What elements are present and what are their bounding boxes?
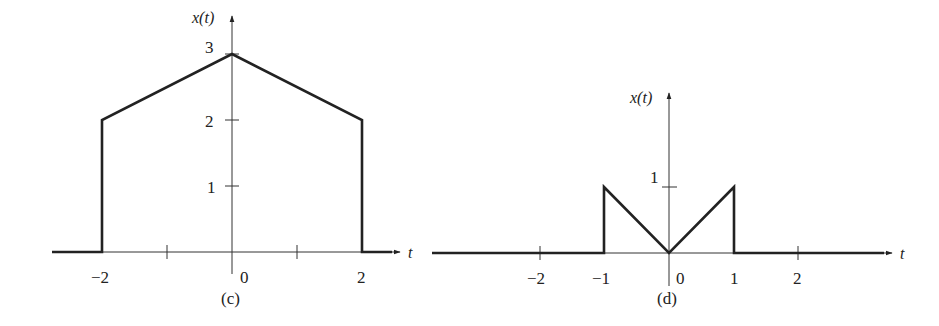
chart-c: x(t) 3 2 1 t −2 0 2 (c): [52, 9, 413, 308]
c-y1-label: 1: [207, 178, 216, 197]
c-panel-label: (c): [221, 289, 240, 308]
d-x0-label: 0: [676, 269, 685, 288]
c-x0-label: 0: [240, 268, 249, 287]
d-panel-label: (d): [657, 289, 677, 308]
c-xlabel: t: [408, 244, 413, 261]
c-y2-label: 2: [205, 112, 214, 131]
d-x2-label: 2: [793, 269, 802, 288]
c-signal: [52, 54, 392, 252]
d-xlabel: t: [900, 245, 905, 262]
chart-d: x(t) 1 t −2 −1 0 1 2 (d): [432, 89, 905, 308]
d-x1-label: 1: [730, 269, 739, 288]
d-xm2-label: −2: [527, 269, 545, 288]
c-xm2-label: −2: [91, 268, 109, 287]
c-ylabel: x(t): [191, 9, 214, 27]
c-x2-label: 2: [357, 268, 366, 287]
d-xm1-label: −1: [592, 269, 610, 288]
figure: x(t) 3 2 1 t −2 0 2 (c) x(t) 1 t −2 −1 0…: [0, 0, 939, 326]
c-y3-label: 3: [205, 38, 214, 57]
d-y1-label: 1: [650, 168, 659, 187]
d-ylabel: x(t): [629, 89, 652, 107]
d-signal: [432, 187, 884, 253]
